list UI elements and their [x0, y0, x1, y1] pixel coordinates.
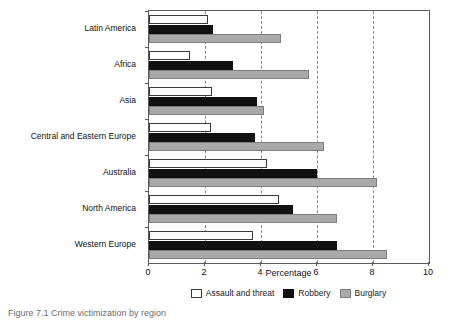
y-axis-minor-tick	[145, 119, 149, 120]
bar-group	[149, 119, 429, 155]
legend-item-assault: Assault and threat	[191, 288, 275, 298]
category-label-3: Central and Eastern Europe	[31, 131, 136, 141]
bar-burglary	[149, 106, 264, 115]
bar-robbery	[149, 205, 293, 214]
bar-robbery	[149, 61, 233, 70]
legend-label-assault: Assault and threat	[206, 288, 275, 298]
bar-robbery	[149, 169, 317, 178]
bar-assault	[149, 159, 267, 168]
bar-burglary	[149, 214, 337, 223]
y-axis-minor-tick	[145, 227, 149, 228]
bar-assault	[149, 51, 190, 60]
bar-robbery	[149, 133, 255, 142]
bar-group	[149, 191, 429, 227]
category-label-0: Latin America	[85, 23, 137, 33]
y-axis-minor-tick	[145, 83, 149, 84]
category-axis-labels: Latin AmericaAfricaAsiaCentral and Easte…	[0, 10, 142, 262]
bar-assault	[149, 231, 253, 240]
bar-chart: Latin AmericaAfricaAsiaCentral and Easte…	[0, 0, 451, 321]
x-tick-6	[316, 262, 317, 266]
bar-group	[149, 11, 429, 47]
bar-burglary	[149, 142, 324, 151]
legend-item-robbery: Robbery	[283, 288, 330, 298]
legend-swatch-assault-icon	[191, 289, 202, 298]
bar-robbery	[149, 97, 257, 106]
y-axis-minor-tick	[145, 191, 149, 192]
bar-burglary	[149, 70, 309, 79]
figure-caption: Figure 7.1 Crime victimization by region	[8, 308, 166, 318]
x-axis-title: Percentage	[148, 268, 429, 278]
y-axis-minor-tick	[145, 155, 149, 156]
plot-area	[148, 10, 430, 264]
bar-burglary	[149, 250, 387, 259]
bar-burglary	[149, 178, 377, 187]
bar-robbery	[149, 241, 337, 250]
y-axis-minor-tick	[145, 47, 149, 48]
chart-legend: Assault and threatRobberyBurglary	[148, 286, 429, 300]
legend-label-burglary: Burglary	[355, 288, 387, 298]
legend-label-robbery: Robbery	[298, 288, 330, 298]
bar-assault	[149, 87, 212, 96]
bar-robbery	[149, 25, 213, 34]
category-label-4: Australia	[103, 167, 136, 177]
legend-swatch-robbery-icon	[283, 289, 294, 298]
y-axis-minor-tick	[145, 11, 149, 12]
legend-swatch-burglary-icon	[340, 289, 351, 298]
category-label-5: North America	[82, 203, 136, 213]
x-tick-10	[428, 262, 429, 266]
category-label-2: Asia	[119, 95, 136, 105]
x-tick-4	[260, 262, 261, 266]
bar-assault	[149, 123, 211, 132]
bar-group	[149, 83, 429, 119]
bar-group	[149, 47, 429, 83]
bar-group	[149, 227, 429, 263]
bar-group	[149, 155, 429, 191]
x-tick-0	[148, 262, 149, 266]
category-label-1: Africa	[114, 59, 136, 69]
bar-burglary	[149, 34, 281, 43]
bar-assault	[149, 195, 279, 204]
bar-assault	[149, 15, 208, 24]
category-label-6: Western Europe	[75, 239, 136, 249]
x-tick-8	[372, 262, 373, 266]
x-tick-2	[204, 262, 205, 266]
legend-item-burglary: Burglary	[340, 288, 387, 298]
